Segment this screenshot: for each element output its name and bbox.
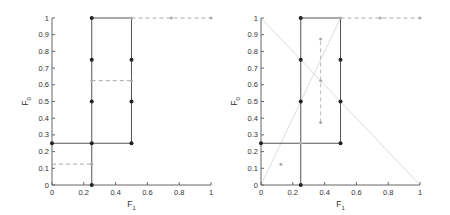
- data-point: [339, 100, 343, 104]
- y-axis-label: F0: [229, 97, 241, 106]
- data-point: [90, 16, 94, 20]
- y-tick-label: 0.5: [248, 97, 258, 106]
- data-point: [90, 141, 94, 145]
- data-point: [259, 141, 263, 145]
- data-point: [299, 183, 303, 187]
- y-tick-label: 0.8: [248, 47, 258, 56]
- data-point: [130, 79, 133, 82]
- x-tick-label: 0.2: [288, 188, 298, 197]
- data-point: [130, 141, 134, 145]
- data-point: [90, 100, 94, 104]
- x-tick-label: 0.2: [79, 188, 89, 197]
- x-tick-label: 1: [418, 188, 422, 197]
- figure: 00.20.40.60.8100.10.20.30.40.50.60.70.80…: [0, 0, 450, 215]
- y-tick-label: 0.6: [248, 80, 258, 89]
- data-point: [90, 58, 94, 62]
- y-tick-label: 0.7: [39, 64, 49, 73]
- y-tick-label: 1: [45, 14, 49, 23]
- data-point: [130, 100, 134, 104]
- x-axis-label: F1: [336, 199, 345, 211]
- data-point: [50, 141, 54, 145]
- x-tick-label: 1: [209, 188, 213, 197]
- y-tick-label: 0.6: [39, 80, 49, 89]
- data-point: [339, 17, 342, 20]
- data-point: [379, 17, 382, 20]
- data-point: [319, 37, 322, 40]
- y-axis-label: F0: [20, 97, 32, 106]
- data-point: [130, 58, 134, 62]
- y-tick-label: 1: [254, 14, 258, 23]
- data-point: [299, 142, 302, 145]
- y-tick-label: 0.3: [39, 130, 49, 139]
- data-point: [319, 121, 322, 124]
- data-point: [299, 16, 303, 20]
- y-tick-label: 0.1: [248, 164, 258, 173]
- x-axis-label: F1: [127, 199, 136, 211]
- y-tick-label: 0.2: [248, 147, 258, 156]
- x-tick-label: 0.4: [110, 188, 120, 197]
- y-tick-label: 0: [45, 181, 49, 190]
- x-tick-label: 0.8: [174, 188, 184, 197]
- left-plot: 00.20.40.60.8100.10.20.30.40.50.60.70.80…: [20, 14, 213, 212]
- data-point: [299, 100, 303, 104]
- data-point: [319, 79, 322, 82]
- y-tick-label: 0.1: [39, 164, 49, 173]
- data-point: [339, 58, 343, 62]
- x-tick-label: 0.8: [383, 188, 393, 197]
- y-tick-label: 0: [254, 181, 258, 190]
- x-tick-label: 0.6: [351, 188, 361, 197]
- data-point: [90, 79, 93, 82]
- data-point: [210, 17, 213, 20]
- y-tick-label: 0.9: [248, 30, 258, 39]
- x-tick-label: 0.4: [319, 188, 329, 197]
- data-point: [299, 58, 303, 62]
- y-tick-label: 0.4: [248, 114, 258, 123]
- x-tick-label: 0: [259, 188, 263, 197]
- y-tick-label: 0.8: [39, 47, 49, 56]
- data-point: [419, 17, 422, 20]
- y-tick-label: 0.9: [39, 30, 49, 39]
- x-tick-label: 0: [50, 188, 54, 197]
- data-point: [90, 163, 93, 166]
- data-point: [170, 17, 173, 20]
- data-point: [339, 141, 343, 145]
- data-point: [130, 17, 133, 20]
- data-point: [279, 163, 282, 166]
- y-tick-label: 0.4: [39, 114, 49, 123]
- x-tick-label: 0.6: [142, 188, 152, 197]
- y-tick-label: 0.3: [248, 130, 258, 139]
- right-plot: 00.20.40.60.8100.10.20.30.40.50.60.70.80…: [229, 14, 422, 212]
- y-tick-label: 0.5: [39, 97, 49, 106]
- y-tick-label: 0.2: [39, 147, 49, 156]
- y-tick-label: 0.7: [248, 64, 258, 73]
- data-point: [90, 183, 94, 187]
